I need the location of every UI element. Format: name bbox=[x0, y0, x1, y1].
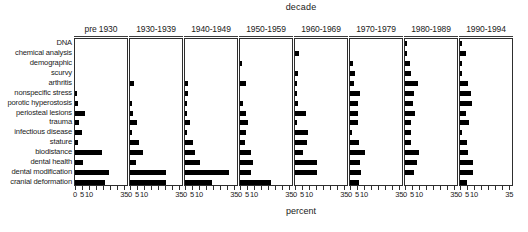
bar bbox=[350, 150, 365, 155]
x-axis-tick bbox=[481, 186, 482, 190]
bar bbox=[75, 180, 105, 185]
bar bbox=[405, 81, 418, 86]
bar bbox=[295, 91, 297, 96]
bar bbox=[75, 111, 85, 116]
category-label: porotic hyperostosis bbox=[7, 98, 72, 107]
panel-variable-title: decade bbox=[0, 2, 528, 12]
bar bbox=[295, 111, 306, 116]
bar bbox=[130, 101, 132, 106]
x-axis-tick bbox=[488, 186, 489, 190]
bar bbox=[240, 120, 248, 125]
bar bbox=[405, 71, 411, 76]
panel-header-rule bbox=[349, 36, 403, 37]
bar bbox=[350, 91, 360, 96]
bar bbox=[460, 61, 462, 66]
x-axis-tick bbox=[426, 186, 427, 190]
category-label: dental modification bbox=[12, 167, 72, 176]
bar bbox=[295, 140, 307, 145]
x-axis-tick-label: 10 bbox=[248, 190, 260, 199]
bar bbox=[75, 91, 77, 96]
bar bbox=[405, 41, 407, 46]
bar bbox=[460, 111, 466, 116]
bar bbox=[295, 120, 297, 125]
bar bbox=[240, 180, 271, 185]
x-axis-tick bbox=[378, 186, 379, 190]
bar bbox=[75, 140, 78, 145]
bar bbox=[350, 81, 354, 86]
panel-header-label: 1990-1994 bbox=[459, 24, 513, 36]
x-axis-tick bbox=[103, 186, 104, 190]
bar bbox=[350, 120, 358, 125]
bar bbox=[295, 130, 308, 135]
bar bbox=[185, 130, 187, 135]
bar bbox=[75, 170, 109, 175]
bar bbox=[350, 160, 360, 165]
bar bbox=[130, 170, 166, 175]
x-axis-title: percent bbox=[0, 206, 528, 216]
bar bbox=[240, 150, 251, 155]
x-axis-tick bbox=[275, 186, 276, 190]
bar bbox=[405, 170, 414, 175]
x-axis-tick-label: 10 bbox=[193, 190, 205, 199]
panel-header-label: 1970-1979 bbox=[349, 24, 403, 36]
bar bbox=[350, 130, 352, 135]
bar bbox=[130, 120, 137, 125]
bar bbox=[460, 160, 473, 165]
x-axis-tick bbox=[385, 186, 386, 190]
chart-figure: decade DNAchemical analysisdemographicsc… bbox=[0, 0, 528, 232]
bar bbox=[405, 120, 411, 125]
bar bbox=[75, 101, 78, 106]
bar bbox=[240, 81, 246, 86]
bar bbox=[350, 180, 359, 185]
panel-header-rule bbox=[294, 36, 348, 37]
chart-panel bbox=[404, 38, 458, 186]
bar bbox=[240, 160, 253, 165]
category-label: biodistance bbox=[35, 147, 72, 156]
panel-header-rule bbox=[459, 36, 513, 37]
bar bbox=[460, 120, 469, 125]
category-label: demographic bbox=[30, 58, 72, 67]
x-axis-tick-label: 10 bbox=[413, 190, 425, 199]
x-axis-tick bbox=[206, 186, 207, 190]
x-axis-tick bbox=[330, 186, 331, 190]
category-label: trauma bbox=[49, 117, 72, 126]
bar bbox=[130, 150, 143, 155]
bar bbox=[130, 160, 136, 165]
chart-panel bbox=[74, 38, 128, 186]
bar bbox=[185, 160, 200, 165]
bar bbox=[405, 51, 407, 56]
bar bbox=[240, 170, 251, 175]
x-axis-tick bbox=[371, 186, 372, 190]
category-label: scurvy bbox=[51, 68, 72, 77]
bar bbox=[295, 170, 317, 175]
x-axis-tick bbox=[213, 186, 214, 190]
bar bbox=[295, 51, 299, 56]
x-axis-tick bbox=[158, 186, 159, 190]
x-axis-tick bbox=[440, 186, 441, 190]
x-axis-tick bbox=[151, 186, 152, 190]
panel-header-label: 1940-1949 bbox=[184, 24, 238, 36]
bar bbox=[460, 150, 468, 155]
bar bbox=[240, 130, 246, 135]
bar bbox=[350, 101, 358, 106]
bar bbox=[75, 120, 79, 125]
bar bbox=[240, 101, 243, 106]
bar bbox=[350, 140, 359, 145]
bar bbox=[460, 180, 467, 185]
chart-panel bbox=[129, 38, 183, 186]
x-axis-tick bbox=[220, 186, 221, 190]
bar bbox=[185, 81, 188, 86]
bar bbox=[130, 130, 132, 135]
panel-header-label: 1950-1959 bbox=[239, 24, 293, 36]
bar bbox=[405, 130, 411, 135]
bar bbox=[185, 170, 229, 175]
bar bbox=[460, 41, 462, 46]
x-axis-tick bbox=[96, 186, 97, 190]
chart-panel bbox=[294, 38, 348, 186]
chart-panel bbox=[459, 38, 513, 186]
panel-header-rule bbox=[129, 36, 183, 37]
x-axis-tick-label: 10 bbox=[468, 190, 480, 199]
bar bbox=[460, 101, 472, 106]
bar bbox=[295, 71, 298, 76]
category-label: nonspecific stress bbox=[14, 88, 72, 97]
